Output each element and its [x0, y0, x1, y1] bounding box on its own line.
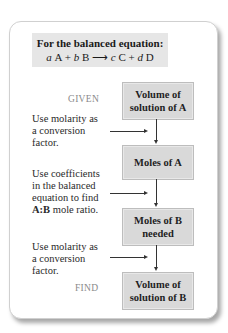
flow-arrow-2 — [156, 179, 157, 203]
step-pointer-1 — [110, 131, 144, 132]
box-moles-a: Moles of A — [122, 145, 194, 180]
reaction-arrow-icon: ⟶ — [92, 51, 108, 63]
step-label-molarity-1: Use molarity as a conversion factor. — [32, 113, 98, 149]
arrow-head-icon — [154, 140, 158, 144]
arrow-head-icon — [154, 267, 158, 271]
step-label-molarity-2: Use molarity as a conversion factor. — [32, 241, 98, 277]
arrow-right-icon — [144, 255, 148, 259]
arrow-right-icon — [144, 191, 148, 195]
step-pointer-2 — [110, 193, 144, 194]
arrow-head-icon — [154, 203, 158, 207]
flow-arrow-3 — [156, 245, 157, 268]
box-volume-solution-b: Volume ofsolution of B — [122, 272, 194, 310]
step-label-coefficients: Use coefficients in the balanced equatio… — [32, 168, 100, 216]
box-volume-solution-a: Volume ofsolution of A — [122, 82, 194, 120]
equation-formula: a A + b B ⟶ c C + d D — [32, 50, 168, 64]
step-pointer-3 — [110, 257, 144, 258]
given-label: GIVEN — [68, 94, 99, 104]
flow-arrow-1 — [156, 119, 157, 141]
box-moles-b-needed: Moles of Bneeded — [122, 208, 194, 246]
arrow-right-icon — [144, 129, 148, 133]
balanced-equation-box: For the balanced equation: a A + b B ⟶ c… — [32, 33, 168, 67]
find-label: FIND — [75, 283, 98, 293]
equation-title: For the balanced equation: — [32, 36, 168, 50]
